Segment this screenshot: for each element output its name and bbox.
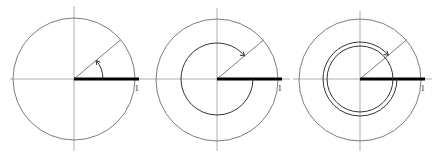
panel-2: 1 [150,8,290,151]
unit-label: 1 [278,83,283,93]
angle-ray [217,40,264,79]
panel-3: 1 [293,11,432,151]
angle-ray [74,40,121,79]
unit-label: 1 [135,83,140,93]
panel-1: 1 [10,6,150,151]
angle-diagram: 1 1 1 [0,0,434,156]
angle-ray [360,40,407,79]
unit-label: 1 [421,83,426,93]
angle-arc [96,60,103,79]
